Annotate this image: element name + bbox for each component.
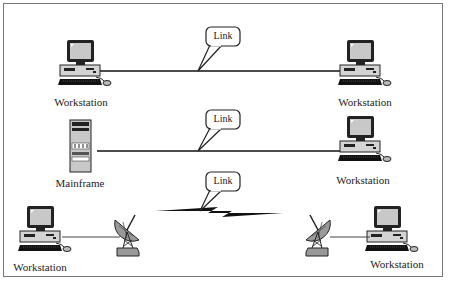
mainframe-icon (70, 120, 91, 172)
node-label: Workstation (336, 174, 390, 186)
network-diagram (0, 0, 451, 283)
link-callout-label: Link (214, 175, 233, 186)
workstation-icon (18, 206, 71, 252)
workstation-icon (365, 206, 418, 252)
node-label: Mainframe (56, 177, 105, 189)
workstation-icon (338, 40, 391, 86)
node-label: Workstation (370, 258, 424, 270)
node-label: Workstation (13, 261, 67, 273)
microwave-link-zigzag (155, 207, 283, 217)
satellite-dish-icon (306, 215, 330, 256)
callout-tail (198, 128, 222, 151)
callout-tail (198, 45, 222, 71)
satellite-dish-icon (115, 215, 139, 256)
workstation-icon (338, 116, 391, 162)
node-label: Workstation (54, 96, 108, 108)
link-callout-label: Link (214, 30, 233, 41)
link-callout-label: Link (214, 113, 233, 124)
node-label: Workstation (338, 96, 392, 108)
workstation-icon (58, 40, 111, 86)
